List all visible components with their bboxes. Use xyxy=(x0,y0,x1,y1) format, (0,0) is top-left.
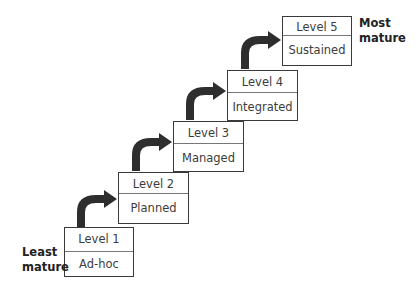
level-3-divider xyxy=(174,143,243,144)
arrowhead-icon xyxy=(268,31,281,49)
level-2-label: Level 2 xyxy=(119,177,188,191)
curved-arrow-icon xyxy=(81,199,106,228)
level-1-divider xyxy=(65,251,133,252)
least-mature-line2: mature xyxy=(22,260,69,275)
arrowhead-icon xyxy=(213,82,226,100)
level-5-divider xyxy=(283,35,351,36)
level-1-label: Level 1 xyxy=(65,232,133,246)
level-4-label: Level 4 xyxy=(228,75,297,89)
level-2-name: Planned xyxy=(119,201,188,215)
curved-arrow-icon xyxy=(245,40,270,69)
level-4-name: Integrated xyxy=(228,100,297,114)
curved-arrow-icon xyxy=(190,91,215,120)
arrowhead-icon xyxy=(159,133,172,151)
most-mature-line2: mature xyxy=(359,31,406,46)
level-5-box: Level 5 Sustained xyxy=(282,16,352,66)
arrowhead-icon xyxy=(104,190,117,208)
least-mature-label: Least mature xyxy=(22,245,69,275)
level-3-name: Managed xyxy=(174,151,243,165)
least-mature-line1: Least xyxy=(22,245,69,260)
level-4-box: Level 4 Integrated xyxy=(227,70,298,121)
level-5-name: Sustained xyxy=(283,43,351,57)
level-2-box: Level 2 Planned xyxy=(118,172,189,224)
curved-arrow-icon xyxy=(136,142,161,171)
level-1-box: Level 1 Ad-hoc xyxy=(64,227,134,277)
level-3-box: Level 3 Managed xyxy=(173,121,244,172)
level-2-divider xyxy=(119,193,188,194)
level-4-divider xyxy=(228,92,297,93)
most-mature-line1: Most xyxy=(359,16,406,31)
level-3-label: Level 3 xyxy=(174,126,243,140)
level-5-label: Level 5 xyxy=(283,20,351,34)
most-mature-label: Most mature xyxy=(359,16,406,46)
level-1-name: Ad-hoc xyxy=(65,257,133,271)
